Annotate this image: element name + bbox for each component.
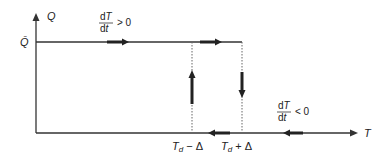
left-arrow-icon: [208, 130, 230, 137]
upper-threshold-label: Td + Δ: [221, 140, 253, 154]
t-axis-label: T: [364, 127, 372, 139]
q-axis-arrow-icon: [33, 13, 40, 21]
left-arrow-icon: [283, 130, 303, 137]
q-axis-label: Q: [47, 10, 56, 22]
falling-annotation: dT dt < 0: [277, 100, 310, 123]
falling-denominator: dt: [278, 112, 288, 123]
t-axis-arrow-icon: [350, 130, 358, 137]
q-axis: [33, 13, 40, 133]
rising-numerator: dT: [100, 11, 113, 22]
up-arrow-icon: [189, 70, 196, 104]
falling-numerator: dT: [278, 100, 291, 111]
t-axis: [36, 130, 358, 137]
lower-threshold-label: Td − Δ: [172, 140, 204, 154]
rising-annotation: dT dt > 0: [99, 11, 132, 34]
falling-relation: < 0: [295, 106, 310, 117]
rising-denominator: dt: [100, 23, 110, 34]
hysteresis-diagram: Q T Q̄ dT dt > 0 dT dt < 0 Td − Δ Td + Δ: [0, 0, 386, 157]
right-arrow-icon: [107, 39, 129, 46]
rising-relation: > 0: [117, 17, 132, 28]
q-bar-label: Q̄: [20, 36, 29, 48]
right-arrow-icon: [200, 39, 222, 46]
down-arrow-icon: [239, 72, 246, 98]
